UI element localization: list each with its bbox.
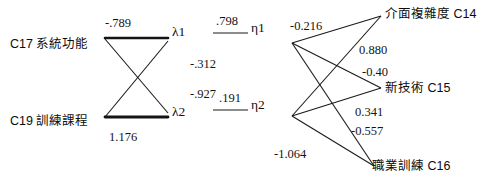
coef-eta1-c16: -0.40	[362, 66, 388, 79]
coef-lambda2-eta2: .191	[219, 92, 241, 105]
node-c17-label: C17 系統功能	[10, 38, 88, 51]
edge-group-left	[105, 38, 168, 117]
coef-c19-lambda1: -.927	[190, 88, 216, 101]
coef-c17-lambda1: -.789	[105, 17, 131, 30]
node-c14-label: 介面複雜度 C14	[385, 8, 476, 21]
node-lambda2-label: λ2	[172, 105, 185, 119]
node-lambda1-label: λ1	[172, 25, 185, 39]
coef-c19-lambda2: 1.176	[109, 131, 137, 144]
node-c16-label: 職業訓練 C16	[372, 160, 450, 173]
coef-eta2-c16: -1.064	[274, 148, 306, 161]
edge-c17-lambda2	[105, 39, 168, 113]
coef-c17-lambda2: -.312	[190, 58, 216, 71]
node-eta2-label: η2	[251, 98, 265, 112]
coef-eta2-c15: -0.557	[351, 125, 383, 138]
path-diagram-figure: C17 系統功能 C19 訓練課程 λ1 λ2 η1 η2 介面複雜度 C14 …	[0, 0, 486, 186]
edge-c19-lambda1	[105, 41, 168, 117]
coef-eta2-c14: 0.341	[355, 106, 383, 119]
coef-lambda1-eta1: .798	[216, 15, 238, 28]
node-c15-label: 新技術 C15	[385, 82, 450, 95]
coef-eta1-c15: 0.880	[359, 44, 387, 57]
coef-eta1-c14: -0.216	[290, 20, 322, 33]
node-eta1-label: η1	[251, 21, 265, 35]
node-c19-label: C19 訓練課程	[10, 115, 88, 128]
